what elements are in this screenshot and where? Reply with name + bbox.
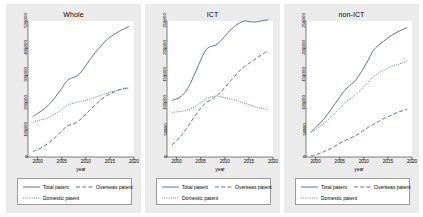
plot-svg (28, 21, 134, 157)
legend-entry-domestic: Domestic patent (301, 192, 357, 204)
y-tick-1: 50000 (284, 127, 304, 133)
legend-label-total: Total patent (43, 184, 69, 191)
legend-swatch-total-line (23, 184, 40, 190)
chart-panel-2: non-ICT050000100000150000200000250000200… (284, 4, 419, 213)
y-tick-3: 150000 (284, 72, 304, 78)
legend-box: Total patentOverseas patentDomestic pate… (17, 178, 132, 205)
series-line-1 (33, 87, 129, 151)
legend-label-domestic: Domestic patent (43, 195, 79, 202)
plot-area (306, 21, 412, 157)
plot-svg (167, 21, 273, 157)
legend-row-2: Domestic patent (18, 192, 131, 204)
x-axis-label: year (28, 167, 134, 172)
y-tick-3: 150000 (145, 72, 165, 78)
y-tick-0: 0 (284, 154, 304, 160)
legend-box: Total patentOverseas patentDomestic pate… (295, 178, 410, 205)
legend-swatch-total-line (301, 184, 318, 190)
y-tick-1: 50000 (145, 127, 165, 133)
legend-box: Total patentOverseas patentDomestic pate… (156, 178, 271, 205)
legend-label-overseas: Overseas patent (235, 184, 272, 191)
x-axis-label: year (306, 167, 412, 172)
y-tick-3: 300000 (6, 72, 26, 78)
figure-root: Whole01000002000003000004000005000002000… (0, 0, 423, 217)
legend-label-total: Total patent (321, 184, 347, 191)
y-tick-4: 200000 (145, 45, 165, 51)
series-line-2 (172, 96, 268, 112)
legend-entry-domestic: Domestic patent (162, 192, 218, 204)
y-tick-2: 100000 (284, 100, 304, 106)
series-line-1 (172, 50, 268, 145)
x-axis-label: year (167, 167, 273, 172)
chart-panel-0: Whole01000002000003000004000005000002000… (6, 4, 141, 213)
legend-swatch-overseas-line (76, 184, 93, 190)
plot-svg (306, 21, 412, 157)
legend-entry-domestic: Domestic patent (23, 192, 79, 204)
series-line-0 (311, 28, 407, 132)
plot-area (28, 21, 134, 157)
legend-swatch-domestic-line (162, 195, 179, 201)
y-tick-2: 100000 (145, 100, 165, 106)
legend-swatch-domestic-line (301, 195, 318, 201)
legend-swatch-domestic-line (23, 195, 40, 201)
plot-area (167, 21, 273, 157)
legend-row-2: Domestic patent (296, 192, 409, 204)
chart-panel-1: ICT0500001000001500002000002500002000200… (145, 4, 280, 213)
legend-label-total: Total patent (182, 184, 208, 191)
y-tick-4: 400000 (6, 45, 26, 51)
series-line-2 (311, 61, 407, 133)
y-tick-5: 250000 (145, 18, 165, 24)
legend-label-overseas: Overseas patent (374, 184, 411, 191)
y-tick-0: 0 (145, 154, 165, 160)
legend-label-domestic: Domestic patent (321, 195, 357, 202)
y-tick-0: 0 (6, 154, 26, 160)
legend-swatch-total-line (162, 184, 179, 190)
y-tick-5: 500000 (6, 18, 26, 24)
legend-label-overseas: Overseas patent (96, 184, 133, 191)
legend-label-domestic: Domestic patent (182, 195, 218, 202)
legend-swatch-overseas-line (354, 184, 371, 190)
y-tick-4: 200000 (284, 45, 304, 51)
y-tick-5: 250000 (284, 18, 304, 24)
y-tick-1: 100000 (6, 127, 26, 133)
y-tick-2: 200000 (6, 100, 26, 106)
legend-swatch-overseas-line (215, 184, 232, 190)
series-line-0 (33, 26, 129, 116)
legend-row-2: Domestic patent (157, 192, 270, 204)
series-line-1 (311, 109, 407, 156)
series-line-2 (33, 88, 129, 122)
